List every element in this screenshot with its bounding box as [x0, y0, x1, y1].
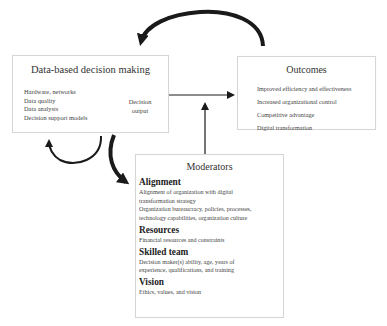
- outcomes-list: Improved efficiency and effectiveness In…: [257, 82, 351, 134]
- section-text: Alignment of organization with digital: [139, 188, 279, 197]
- moderators-title: Moderators: [136, 161, 283, 172]
- input-item: Data analysts: [24, 105, 88, 114]
- loop-arrow: [49, 136, 101, 163]
- section-text: technology capabilities, organization cu…: [139, 214, 279, 223]
- outcomes-title: Outcomes: [238, 64, 375, 75]
- section-text: Decision maker(s) ability, age, years of: [139, 258, 279, 267]
- outcome-item: Increased organizational control: [257, 95, 351, 108]
- data-to-moderators-arrow: [110, 135, 126, 182]
- outcome-item: Digital transformation: [257, 121, 351, 134]
- section-heading-vision: Vision: [139, 277, 279, 288]
- section-heading-skilled-team: Skilled team: [139, 247, 279, 258]
- input-item: Hardware, networks: [24, 88, 88, 97]
- moderators-body: Alignment Alignment of organization with…: [139, 175, 279, 297]
- input-item: Decision support models: [24, 114, 88, 123]
- section-text: Organization bureaucracy, policies, proc…: [139, 205, 279, 214]
- section-text: Financial resources and constraints: [139, 236, 279, 245]
- input-item: Data quality: [24, 97, 88, 106]
- outcome-item: Competitive advantage: [257, 108, 351, 121]
- moderators-box: Moderators Alignment Alignment of organi…: [135, 154, 284, 318]
- section-heading-resources: Resources: [139, 225, 279, 236]
- outcome-item: Improved efficiency and effectiveness: [257, 82, 351, 95]
- section-text: experience, qualifications, and training: [139, 266, 279, 275]
- section-heading-alignment: Alignment: [139, 177, 279, 188]
- feedback-arc-arrow: [141, 12, 263, 46]
- outcomes-box: Outcomes Improved efficiency and effecti…: [237, 56, 376, 130]
- data-based-decision-box: Data-based decision making Hardware, net…: [12, 55, 169, 133]
- inputs-list: Hardware, networks Data quality Data ana…: [24, 88, 88, 123]
- decision-output: Decision output: [120, 98, 160, 115]
- decision-output-line: Decision: [120, 98, 160, 107]
- data-box-title: Data-based decision making: [13, 64, 168, 75]
- section-text: Ethics, values, and vision: [139, 288, 279, 297]
- section-text: transformation strategy: [139, 197, 279, 206]
- decision-output-line: output: [120, 107, 160, 116]
